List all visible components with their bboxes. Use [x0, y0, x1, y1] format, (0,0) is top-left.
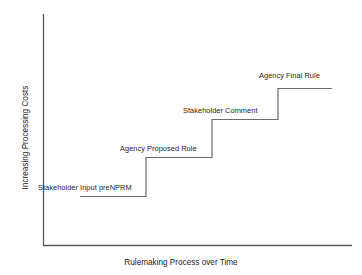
step-function-line: [80, 89, 332, 197]
y-axis-title: Increasing Processing Costs: [16, 0, 36, 275]
chart-plot-area: [0, 0, 362, 275]
step-label-agency-proposed-rule: Agency Proposed Rule: [120, 145, 197, 152]
step-label-stakeholder-comment: Stakeholder Comment: [183, 107, 257, 114]
step-label-stakeholder-input-prenprm: Stakeholder Input preNPRM: [38, 184, 132, 191]
x-axis-title: Rulemaking Process over Time: [0, 258, 362, 267]
step-chart-figure: Stakeholder Input preNPRM Agency Propose…: [0, 0, 362, 275]
step-label-agency-final-rule: Agency Final Rule: [259, 72, 320, 79]
